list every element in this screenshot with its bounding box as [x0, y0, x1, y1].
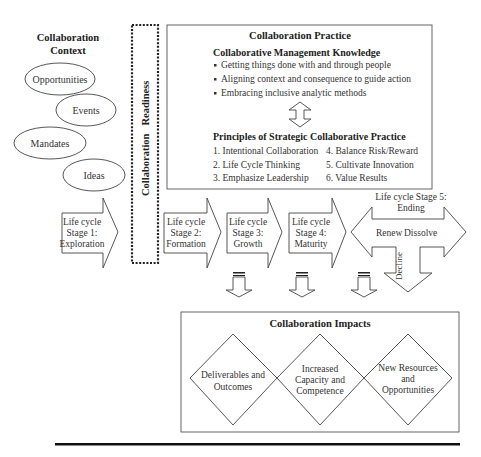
stage-4-arrow: Life cycle Stage 4: Maturity	[289, 198, 346, 268]
principle-item: 4. Balance Risk/Reward	[326, 146, 418, 156]
bullet-icon	[214, 92, 217, 95]
knowledge-item: Embracing inclusive analytic methods	[221, 88, 367, 98]
collaboration-context: Collaboration Context Opportunities Even…	[14, 32, 125, 191]
context-title-line2: Context	[50, 45, 86, 56]
down-arrow-icon	[289, 277, 315, 297]
context-item-mandates: Mandates	[31, 138, 70, 149]
stage-label: Exploration	[60, 239, 105, 249]
stage5-title: Ending	[397, 203, 425, 213]
knowledge-heading: Collaborative Management Knowledge	[213, 47, 381, 58]
stage-label: Maturity	[294, 239, 327, 249]
stage-label: Stage 1:	[67, 228, 98, 238]
impact-label: New Resources	[378, 363, 438, 373]
principle-item: 1. Intentional Collaboration	[213, 146, 319, 156]
context-item-opportunities: Opportunities	[33, 74, 88, 85]
stage-label: Stage 2:	[171, 228, 202, 238]
down-arrow-2	[289, 272, 315, 297]
stage-label: Life cycle	[167, 217, 205, 227]
impact-label: Outcomes	[214, 382, 253, 392]
bottom-rule	[55, 443, 460, 446]
impact-label: and	[401, 374, 415, 384]
stage5-renew: Renew	[376, 228, 403, 238]
stage-3-arrow: Life cycle Stage 3: Growth	[227, 198, 282, 268]
stage5-title: Life cycle Stage 5:	[375, 192, 446, 202]
context-item-events: Events	[72, 105, 99, 116]
stage-2-arrow: Life cycle Stage 2: Formation	[164, 198, 221, 268]
impact-label: Competence	[296, 386, 343, 396]
readiness-label: CollaborationReadiness	[140, 81, 151, 196]
impact-label: Capacity and	[295, 375, 345, 385]
stage5-decline: Decline	[394, 252, 404, 280]
stage-label: Stage 3:	[233, 228, 264, 238]
principle-item: 6. Value Results	[326, 173, 388, 183]
impact-label: Opportunities	[382, 385, 435, 395]
collaboration-readiness: CollaborationReadiness	[132, 25, 158, 263]
stage-label: Formation	[166, 239, 206, 249]
context-title-line1: Collaboration	[37, 32, 100, 43]
knowledge-item: Aligning context and consequence to guid…	[221, 74, 411, 84]
collaboration-diagram: Collaboration Context Opportunities Even…	[0, 0, 481, 457]
context-item-ideas: Ideas	[83, 170, 104, 181]
down-arrow-3	[351, 272, 377, 297]
principle-item: 2. Life Cycle Thinking	[213, 160, 300, 170]
principles-heading: Principles of Strategic Collaborative Pr…	[213, 131, 406, 142]
down-arrow-1	[226, 272, 252, 297]
stage-1-arrow: Life cycle Stage 1: Exploration	[60, 198, 118, 268]
bullet-icon	[214, 64, 217, 67]
bullet-icon	[214, 78, 217, 81]
principle-item: 3. Emphasize Leadership	[213, 173, 309, 183]
collaboration-impacts: Collaboration Impacts Deliverables and O…	[181, 312, 459, 432]
collaboration-practice: Collaboration Practice Collaborative Man…	[167, 25, 432, 189]
practice-title: Collaboration Practice	[249, 30, 351, 41]
stage-label: Life cycle	[292, 217, 330, 227]
stage-label: Growth	[233, 239, 262, 249]
impacts-title: Collaboration Impacts	[269, 318, 370, 329]
impact-label: Deliverables and	[201, 370, 265, 380]
impact-label: Increased	[302, 364, 339, 374]
down-arrow-icon	[226, 277, 252, 297]
stage-label: Life cycle	[63, 217, 101, 227]
principle-item: 5. Cultivate Innovation	[326, 160, 414, 170]
knowledge-item: Getting things done with and through peo…	[221, 60, 391, 70]
stage5-dissolve: Dissolve	[404, 228, 437, 238]
down-arrow-icon	[351, 277, 377, 297]
stage-label: Life cycle	[229, 217, 267, 227]
stage-label: Stage 4:	[296, 228, 327, 238]
